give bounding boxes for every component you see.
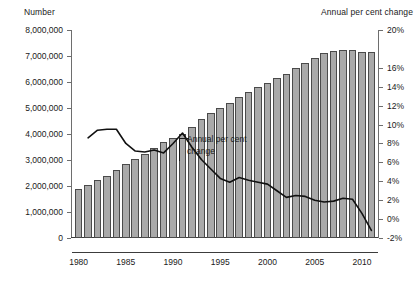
left-axis-tick-label: 3,000,000 <box>25 156 72 165</box>
right-axis-tick-label: -2% <box>378 234 402 243</box>
x-axis-line <box>72 252 378 253</box>
left-axis-tick-label: 0 <box>58 234 72 243</box>
x-axis-tick-label: 2000 <box>258 257 277 267</box>
plot-area: 01,000,0002,000,0003,000,0004,000,0005,0… <box>72 30 378 238</box>
right-axis-tick-label: 10% <box>378 120 404 129</box>
left-axis-tick-label: 8,000,000 <box>25 26 72 35</box>
right-axis-tick-label: 8% <box>378 139 399 148</box>
series-annotation: Annual per cent change <box>187 134 247 157</box>
right-axis-tick-label: 14% <box>378 82 404 91</box>
annotation-line-1: Annual per cent <box>187 134 247 146</box>
annotation-line-2: change <box>187 146 247 158</box>
x-axis-tick-label: 1980 <box>69 257 88 267</box>
x-axis-labels: 1980198519901995200020052010 <box>72 257 378 271</box>
left-axis-tick-label: 4,000,000 <box>25 130 72 139</box>
right-axis-line <box>378 30 379 238</box>
left-axis-tick-label: 5,000,000 <box>25 104 72 113</box>
left-axis-tick-label: 1,000,000 <box>25 208 72 217</box>
right-axis-tick-label: 4% <box>378 177 399 186</box>
left-axis-tick-label: 2,000,000 <box>25 182 72 191</box>
right-axis-tick-label: 20% <box>378 26 404 35</box>
right-axis-tick-label: 16% <box>378 64 404 73</box>
right-axis-tick-label: 2% <box>378 196 399 205</box>
chart-container: Number Annual per cent change 01,000,000… <box>0 0 419 282</box>
x-axis-tick-label: 2005 <box>305 257 324 267</box>
x-axis-tick-label: 1995 <box>211 257 230 267</box>
x-axis-tick-label: 1985 <box>116 257 135 267</box>
x-axis-tick-label: 2010 <box>352 257 371 267</box>
right-axis-tick-label: 6% <box>378 158 399 167</box>
x-axis-tick-label: 1990 <box>164 257 183 267</box>
left-axis-tick-label: 7,000,000 <box>25 52 72 61</box>
left-axis-tick-label: 6,000,000 <box>25 78 72 87</box>
right-axis-tick-label: 0% <box>378 215 399 224</box>
left-axis-title: Number <box>24 7 55 17</box>
right-axis-tick-label: 12% <box>378 101 404 110</box>
right-axis-title: Annual per cent change <box>321 7 413 17</box>
